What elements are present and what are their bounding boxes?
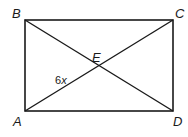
segment-label-ae: 6x: [55, 74, 67, 86]
vertex-label-c: C: [175, 6, 185, 21]
rectangle-diagram: B C A D E 6x: [0, 0, 188, 137]
intersection-label-e: E: [92, 50, 101, 65]
vertex-label-d: D: [173, 114, 182, 129]
segment-var: x: [60, 74, 67, 86]
vertex-label-b: B: [12, 6, 21, 21]
vertex-label-a: A: [12, 114, 22, 129]
